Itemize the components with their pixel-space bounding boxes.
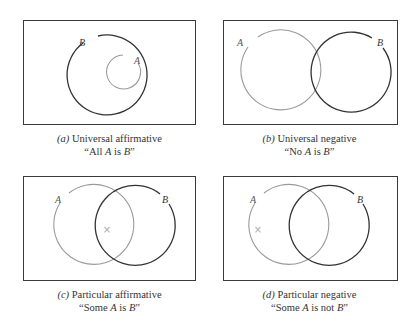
universe-frame [224,177,398,281]
caption-title: Universal negative [277,133,356,144]
caption-label: (c) [57,289,69,300]
statement-mid: is not [309,302,337,312]
caption-a: (a) Universal affirmative “All A is B” [7,132,212,158]
panel-d-diagram: A B × [224,177,398,281]
caption-d: (d) Particular negative “Some A is not B… [207,288,410,312]
label-a: A [54,194,62,205]
panel-a-diagram: B A [24,21,196,125]
statement-mid: is [111,146,123,157]
statement-close: ” [330,146,335,157]
label-b: B [377,37,383,48]
statement-open: “All [84,146,105,157]
existence-mark-x: × [103,224,111,235]
caption-title: Particular affirmative [72,289,162,300]
caption-title: Universal affirmative [72,133,162,144]
statement-open: “Some [79,302,110,312]
statement-open: “No [285,146,305,157]
caption-label: (a) [57,133,69,144]
label-b: B [357,194,363,205]
statement-mid: is [117,302,129,312]
caption-label: (d) [263,289,275,300]
existence-mark-x: × [254,224,262,235]
caption-label: (b) [263,133,275,144]
circle-a [54,184,134,264]
panel-c-diagram: A B × [24,177,196,281]
caption-c: (c) Particular affirmative “Some A is B” [7,288,212,312]
universe-frame [24,21,196,125]
statement-close: ” [135,302,140,312]
label-a: A [133,55,141,66]
label-a: A [236,37,244,48]
label-b: B [162,194,168,205]
label-b: B [79,37,85,48]
statement-mid: is [311,146,323,157]
panel-b-diagram: A B [224,21,398,125]
statement-close: ” [343,302,348,312]
statement-open: “Some [271,302,302,312]
caption-title: Particular negative [277,289,356,300]
circle-a [241,30,321,110]
caption-b: (b) Universal negative “No A is B” [207,132,410,158]
label-a: A [249,194,257,205]
statement-close: ” [130,146,135,157]
